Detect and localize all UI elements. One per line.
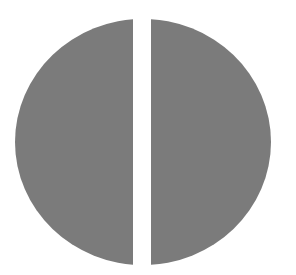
split-circle-diagram xyxy=(0,0,296,275)
